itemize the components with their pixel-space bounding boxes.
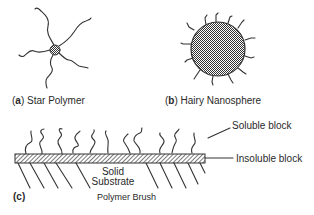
caption-star-polymer: (a) Star Polymer bbox=[12, 95, 85, 106]
soluble-block-label: Soluble block bbox=[232, 120, 291, 131]
star-polymer bbox=[19, 8, 91, 88]
panel-letter-b: b bbox=[168, 95, 174, 106]
panel-letter-a: a bbox=[15, 95, 21, 106]
caption-hairy-nanosphere: (b) Hairy Nanosphere bbox=[165, 95, 261, 106]
star-arm bbox=[19, 50, 50, 56]
star-arm bbox=[46, 55, 53, 88]
insoluble-block-label: Insoluble block bbox=[236, 153, 302, 164]
substrate-label-line2: Substrate bbox=[85, 176, 141, 187]
star-core bbox=[50, 45, 60, 55]
nanosphere-core bbox=[191, 22, 245, 76]
hairy-nanosphere-title: Hairy Nanosphere bbox=[181, 95, 262, 106]
panel-letter-c: (c) bbox=[13, 191, 25, 202]
diagram-canvas bbox=[0, 0, 314, 215]
star-arm bbox=[35, 8, 54, 45]
soluble-block-leader bbox=[208, 128, 230, 138]
polymer-brush-title: Polymer Brush bbox=[97, 192, 156, 203]
star-polymer-title: Star Polymer bbox=[27, 95, 85, 106]
substrate-bar bbox=[15, 154, 205, 163]
star-arm bbox=[59, 18, 91, 46]
star-arm bbox=[59, 53, 88, 68]
hairy-nanosphere bbox=[181, 13, 255, 85]
